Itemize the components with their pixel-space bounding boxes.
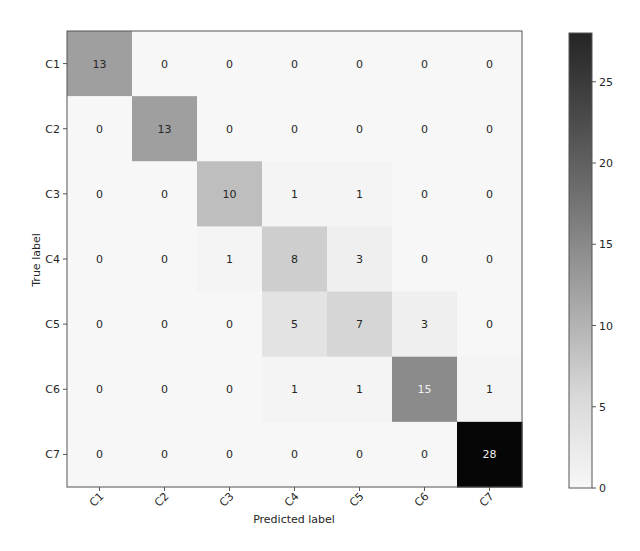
- matrix-cell-value: 0: [96, 253, 103, 266]
- colorbar-tick-label: 15: [599, 238, 613, 251]
- x-axis-ticks: C1C2C3C4C5C6C7: [87, 487, 497, 510]
- colorbar-tick-label: 5: [599, 401, 606, 414]
- y-tick-label: C2: [45, 123, 60, 136]
- matrix-cell-value: 0: [291, 58, 298, 71]
- colorbar-tick-label: 0: [599, 482, 606, 495]
- matrix-cell-value: 1: [226, 253, 233, 266]
- matrix-cell-value: 0: [226, 383, 233, 396]
- matrix-cell-value: 0: [486, 188, 493, 201]
- matrix-cell-value: 0: [96, 318, 103, 331]
- matrix-cell-value: 8: [291, 253, 298, 266]
- y-tick-label: C7: [45, 448, 60, 461]
- colorbar-ticks: 0510152025: [592, 76, 613, 495]
- matrix-cell-value: 13: [158, 123, 172, 136]
- matrix-cell-value: 0: [96, 383, 103, 396]
- matrix-cell-value: 0: [161, 383, 168, 396]
- matrix-cell-value: 3: [421, 318, 428, 331]
- y-tick-label: C1: [45, 58, 60, 71]
- confusion-matrix-chart: 1300000001300000001011000018300000573000…: [0, 0, 640, 551]
- matrix-cell-value: 0: [486, 253, 493, 266]
- y-tick-label: C6: [45, 383, 60, 396]
- x-tick-label: C4: [282, 490, 302, 510]
- matrix-cell-value: 0: [161, 448, 168, 461]
- matrix-cell-value: 1: [356, 188, 363, 201]
- colorbar: 0510152025: [569, 33, 613, 495]
- matrix-cell-value: 0: [486, 58, 493, 71]
- x-tick-label: C3: [217, 490, 237, 510]
- matrix-cell-value: 1: [291, 383, 298, 396]
- matrix-cell-value: 7: [356, 318, 363, 331]
- x-tick-label: C6: [412, 490, 432, 510]
- matrix-cell-value: 3: [356, 253, 363, 266]
- colorbar-gradient: [569, 33, 592, 488]
- matrix-cell-value: 0: [161, 58, 168, 71]
- y-tick-label: C4: [45, 253, 60, 266]
- y-axis-ticks: C1C2C3C4C5C6C7: [45, 58, 67, 462]
- matrix-cell-value: 0: [421, 253, 428, 266]
- matrix-cell-value: 0: [421, 448, 428, 461]
- x-axis-label: Predicted label: [253, 513, 335, 526]
- matrix-cell-value: 1: [291, 188, 298, 201]
- matrix-cell-value: 0: [356, 123, 363, 136]
- matrix-cell-value: 1: [486, 383, 493, 396]
- matrix-cell-value: 0: [486, 318, 493, 331]
- matrix-cell-value: 15: [418, 383, 432, 396]
- matrix-cell-value: 0: [356, 58, 363, 71]
- matrix-cell-value: 13: [93, 58, 107, 71]
- matrix-cell-value: 0: [421, 58, 428, 71]
- matrix-cell-value: 0: [486, 123, 493, 136]
- y-axis-label: True label: [30, 233, 43, 287]
- matrix-cell-value: 28: [483, 448, 497, 461]
- matrix-cell-value: 0: [96, 188, 103, 201]
- matrix-cell-value: 0: [356, 448, 363, 461]
- matrix-cell-value: 0: [421, 123, 428, 136]
- matrix-cell-value: 0: [161, 253, 168, 266]
- y-tick-label: C5: [45, 318, 60, 331]
- matrix-cell-value: 0: [291, 448, 298, 461]
- matrix-cell-value: 0: [161, 188, 168, 201]
- y-tick-label: C3: [45, 188, 60, 201]
- matrix-cell-value: 0: [226, 123, 233, 136]
- matrix-cell-value: 1: [356, 383, 363, 396]
- matrix-cell-value: 0: [226, 318, 233, 331]
- matrix-cell-value: 0: [96, 448, 103, 461]
- x-tick-label: C5: [347, 490, 367, 510]
- matrix-cell-value: 5: [291, 318, 298, 331]
- matrix-cell-value: 0: [226, 448, 233, 461]
- colorbar-tick-label: 20: [599, 157, 613, 170]
- matrix-cell-value: 0: [421, 188, 428, 201]
- x-tick-label: C2: [152, 490, 172, 510]
- colorbar-tick-label: 25: [599, 76, 613, 89]
- matrix-cell-value: 0: [291, 123, 298, 136]
- colorbar-tick-label: 10: [599, 320, 613, 333]
- x-tick-label: C7: [477, 490, 497, 510]
- x-tick-label: C1: [87, 490, 107, 510]
- matrix-cell-value: 0: [161, 318, 168, 331]
- matrix-cell-value: 10: [223, 188, 237, 201]
- matrix-cell-value: 0: [96, 123, 103, 136]
- matrix-cell-value: 0: [226, 58, 233, 71]
